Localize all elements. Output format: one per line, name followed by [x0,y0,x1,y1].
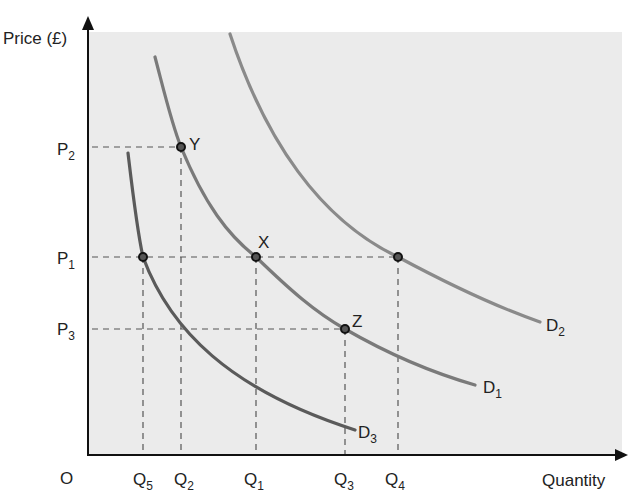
point-label-y: Y [189,135,200,154]
point-label-x: X [258,233,269,252]
quantity-label-q1: Q1 [244,470,264,493]
point-x [252,253,260,261]
plot-background [88,32,622,455]
point-d2-p1 [394,253,402,261]
quantity-label-q4: Q4 [385,470,405,493]
quantity-label-q2: Q2 [174,470,194,493]
point-y [177,143,185,151]
point-d3-p1 [139,253,147,261]
demand-curve-diagram: Y X Z Price (£) Quantity O P2 P1 P3 Q5 Q… [0,0,641,504]
price-label-p1: P1 [57,249,75,272]
point-z [341,325,349,333]
quantity-label-q5: Q5 [133,470,153,493]
point-label-z: Z [352,312,362,331]
y-axis-label: Price (£) [3,29,67,48]
price-label-p3: P3 [57,320,75,343]
origin-label: O [60,469,73,488]
quantity-label-q3: Q3 [334,470,354,493]
y-axis-arrow-icon [82,16,94,30]
price-label-p2: P2 [57,140,75,163]
x-axis-label: Quantity [542,471,606,490]
